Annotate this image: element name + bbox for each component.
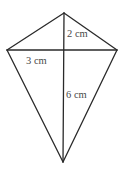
edge-right-bottom [63, 50, 117, 162]
edge-left-bottom [7, 50, 63, 162]
kite-figure: 2 cm3 cm6 cm [0, 0, 123, 172]
kite-diagram: 2 cm3 cm6 cm [0, 0, 123, 172]
label-6cm: 6 cm [66, 89, 87, 100]
label-3cm: 3 cm [26, 55, 47, 66]
edge-top-left [7, 13, 64, 50]
label-2cm: 2 cm [67, 28, 88, 39]
diagonal-top-bottom [63, 13, 64, 162]
